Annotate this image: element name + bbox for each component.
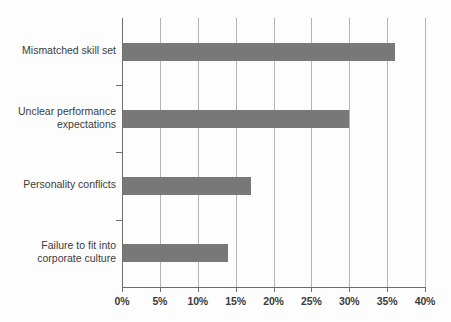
y-axis-label-line: corporate culture [0, 252, 116, 265]
x-axis-tick-35 [387, 287, 388, 292]
bar-chart: 0% 5% 10% 15% 20% 25% 30% 35% 40% Mismat… [0, 0, 451, 322]
x-axis-tick-20 [274, 287, 275, 292]
x-axis-label-35: 35% [367, 295, 407, 307]
x-axis-label-40: 40% [405, 295, 445, 307]
plot-area [122, 18, 425, 287]
y-axis-line [122, 18, 123, 288]
y-axis-label-line: expectations [0, 118, 116, 131]
y-axis-label-unclear-performance: Unclear performance expectations [0, 105, 116, 131]
bar-failure-to-fit [122, 244, 228, 262]
x-axis-tick-0 [122, 287, 123, 292]
x-axis-tick-40 [425, 287, 426, 292]
y-axis-label-line: Unclear performance [0, 105, 116, 118]
x-axis-label-0: 0% [102, 295, 142, 307]
x-axis-tick-25 [311, 287, 312, 292]
y-axis-label-line: Personality conflicts [0, 178, 116, 191]
x-axis-tick-10 [198, 287, 199, 292]
x-axis-tick-5 [160, 287, 161, 292]
gridline-40 [425, 18, 426, 287]
x-axis-tick-15 [236, 287, 237, 292]
y-axis-label-failure-to-fit: Failure to fit into corporate culture [0, 239, 116, 265]
y-axis-label-line: Mismatched skill set [0, 44, 116, 57]
y-axis-label-mismatched-skill-set: Mismatched skill set [0, 44, 116, 57]
bar-unclear-performance [122, 110, 349, 128]
x-axis-label-5: 5% [140, 295, 180, 307]
y-axis-tick-2 [116, 152, 123, 153]
x-axis-label-15: 15% [216, 295, 256, 307]
bar-mismatched-skill-set [122, 43, 395, 61]
y-axis-tick-1 [116, 85, 123, 86]
x-axis-label-25: 25% [291, 295, 331, 307]
x-axis-label-10: 10% [178, 295, 218, 307]
y-axis-label-line: Failure to fit into [0, 239, 116, 252]
bar-personality-conflicts [122, 177, 251, 195]
x-axis-label-30: 30% [329, 295, 369, 307]
y-axis-tick-3 [116, 220, 123, 221]
x-axis-tick-30 [349, 287, 350, 292]
x-axis-label-20: 20% [254, 295, 294, 307]
y-axis-label-personality-conflicts: Personality conflicts [0, 178, 116, 191]
